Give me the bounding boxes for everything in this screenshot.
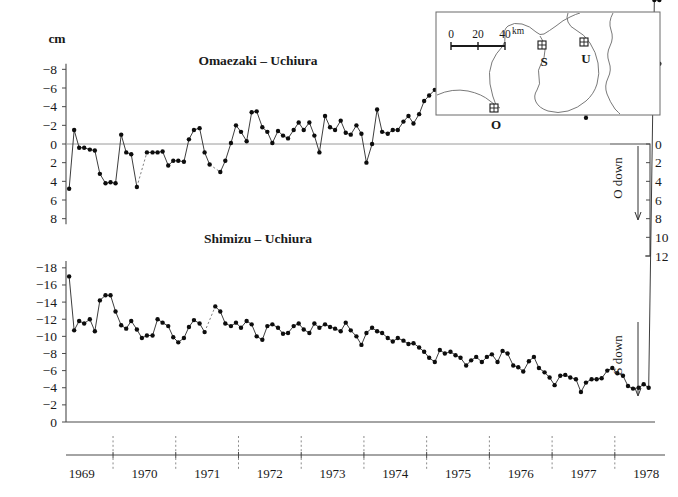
data-point: [244, 319, 248, 323]
data-point: [77, 319, 81, 323]
data-point: [265, 130, 269, 134]
data-point: [349, 328, 353, 332]
bottom-axis-tick-label: −2: [43, 397, 57, 412]
bottom-axis-tick-label: −18: [36, 260, 57, 275]
data-point: [171, 335, 175, 339]
data-point: [276, 129, 280, 133]
station-label-o: O: [491, 117, 501, 132]
data-point: [234, 123, 238, 127]
data-point: [312, 321, 316, 325]
bottom-axis-tick-label: −4: [43, 380, 58, 395]
data-point: [192, 128, 196, 132]
top-right-axis-tick-label: 6: [655, 193, 662, 208]
data-point: [171, 159, 175, 163]
map-frame: [436, 12, 660, 115]
data-point: [558, 374, 562, 378]
data-point: [291, 324, 295, 328]
data-point: [140, 336, 144, 340]
data-point: [422, 350, 426, 354]
data-point: [474, 355, 478, 359]
panel-title-bottom: Shimizu – Uchiura: [204, 231, 312, 246]
data-point: [307, 120, 311, 124]
data-point: [135, 327, 139, 331]
data-point: [542, 370, 546, 374]
top-right-axis-tick-label: 12: [655, 249, 669, 264]
data-point: [281, 133, 285, 137]
data-point: [333, 326, 337, 330]
data-point: [354, 334, 358, 338]
data-point: [317, 326, 321, 330]
scale-label-40: 40: [499, 28, 511, 40]
data-point: [108, 180, 112, 184]
data-point: [166, 163, 170, 167]
year-label: 1978: [633, 466, 659, 481]
data-point: [307, 331, 311, 335]
data-point: [401, 119, 405, 123]
data-point: [380, 331, 384, 335]
top-axis-tick-label: 0: [50, 137, 57, 152]
data-point: [229, 324, 233, 328]
data-point: [354, 123, 358, 127]
data-point: [72, 328, 76, 332]
data-point: [270, 141, 274, 145]
data-point: [218, 309, 222, 313]
station-label-u: U: [581, 51, 591, 66]
data-point: [339, 118, 343, 122]
data-point: [223, 159, 227, 163]
data-point: [359, 132, 363, 136]
top-right-axis-tick-label: 4: [655, 174, 662, 189]
data-point: [599, 376, 603, 380]
data-point: [98, 298, 102, 302]
data-point: [72, 128, 76, 132]
data-point: [119, 132, 123, 136]
data-point: [249, 110, 253, 114]
data-point: [511, 363, 515, 367]
data-point: [197, 321, 201, 325]
data-point: [270, 322, 274, 326]
data-point: [333, 128, 337, 132]
data-point: [584, 116, 588, 120]
data-point: [453, 353, 457, 357]
data-point: [500, 349, 504, 353]
data-point: [323, 322, 327, 326]
data-point: [594, 377, 598, 381]
data-point: [202, 150, 206, 154]
data-point: [135, 185, 139, 189]
data-point: [234, 320, 238, 324]
top-axis-tick-label: −2: [43, 118, 57, 133]
top-axis-tick-label: −8: [43, 62, 58, 77]
data-point: [396, 336, 400, 340]
data-point: [286, 331, 290, 335]
year-label: 1970: [131, 466, 157, 481]
data-point: [302, 327, 306, 331]
data-point: [239, 130, 243, 134]
data-point: [276, 326, 280, 330]
data-point: [469, 358, 473, 362]
data-point: [281, 332, 285, 336]
data-point: [339, 329, 343, 333]
direction-label-s-down: S down: [610, 335, 625, 375]
data-point: [364, 331, 368, 335]
data-point: [495, 360, 499, 364]
data-point: [323, 114, 327, 118]
data-point: [103, 181, 107, 185]
year-label: 1977: [570, 466, 597, 481]
data-point: [417, 112, 421, 116]
data-point: [344, 131, 348, 135]
data-point: [82, 321, 86, 325]
data-point: [129, 319, 133, 323]
data-point: [155, 150, 159, 154]
data-point: [207, 162, 211, 166]
data-point: [145, 333, 149, 337]
data-point: [438, 348, 442, 352]
data-point: [254, 109, 258, 113]
year-label: 1975: [445, 466, 471, 481]
data-point: [359, 343, 363, 347]
data-point: [605, 368, 609, 372]
data-point: [124, 326, 128, 330]
data-point: [176, 159, 180, 163]
data-point: [579, 390, 583, 394]
data-point: [302, 128, 306, 132]
data-point: [291, 128, 295, 132]
station-label-s: S: [540, 54, 547, 69]
